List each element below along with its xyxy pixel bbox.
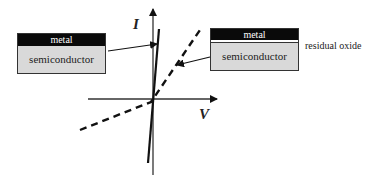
left-pointer-arrow	[108, 44, 157, 51]
left-metal-layer: metal	[18, 34, 105, 46]
x-axis-label: V	[199, 106, 209, 123]
residual-oxide-label: residual oxide	[305, 40, 361, 51]
right-contact-stack: metal semiconductor	[210, 28, 299, 71]
left-contact-stack: metal semiconductor	[17, 33, 106, 74]
right-metal-layer: metal	[211, 29, 298, 40]
right-pointer-arrow	[177, 57, 210, 65]
iv-plot	[0, 0, 380, 179]
left-semiconductor-layer: semiconductor	[18, 46, 105, 73]
right-semiconductor-layer: semiconductor	[211, 43, 298, 69]
y-axis-label: I	[133, 16, 139, 33]
